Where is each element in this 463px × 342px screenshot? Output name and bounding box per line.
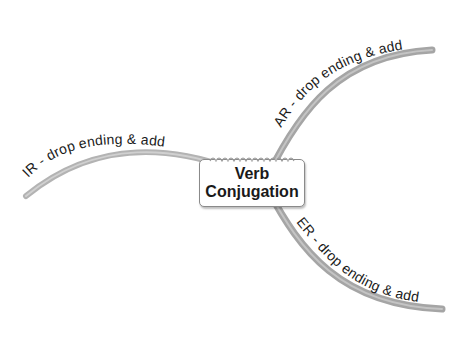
spiral-binding-icon [208,154,296,164]
center-node[interactable]: Verb Conjugation [199,159,305,207]
center-node-title-line2: Conjugation [205,183,298,201]
branch-label-ir[interactable]: IR - drop ending & add [19,131,166,180]
center-node-title-line1: Verb [235,165,270,183]
